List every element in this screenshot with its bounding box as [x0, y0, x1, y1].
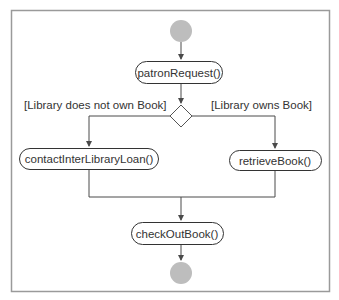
action-label: patronRequest() [137, 67, 220, 79]
guard-not-owned: [Library does not own Book] [24, 99, 167, 111]
action-retrieve-book: retrieveBook() [230, 151, 322, 171]
edge-decision-to-contact-ill [89, 116, 170, 146]
decision-node-icon [170, 105, 192, 127]
action-patron-request: patronRequest() [136, 62, 223, 84]
action-label: retrieveBook() [239, 155, 311, 167]
action-label: contactInterLibraryLoan() [25, 153, 154, 165]
activity-diagram: patronRequest() [Library does not own Bo… [0, 0, 339, 300]
edge-merge [89, 170, 275, 197]
action-label: checkOutBook() [136, 228, 219, 240]
final-node-icon [170, 262, 192, 284]
edge-decision-to-retrieve-book [192, 116, 275, 148]
action-contact-inter-library-loan: contactInterLibraryLoan() [20, 149, 159, 170]
initial-node-icon [170, 20, 192, 42]
guard-owned: [Library owns Book] [211, 99, 312, 111]
action-check-out-book: checkOutBook() [132, 223, 224, 245]
